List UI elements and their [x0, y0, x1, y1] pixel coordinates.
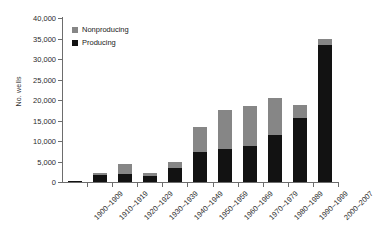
bar-segment-producing — [93, 175, 107, 182]
x-tick — [162, 183, 163, 187]
y-tick-label: 30,000 — [4, 55, 56, 64]
legend-label: Nonproducing — [82, 25, 129, 34]
chart-legend: NonproducingProducing — [72, 24, 129, 50]
x-tick — [263, 183, 264, 187]
x-tick — [213, 183, 214, 187]
bar-column — [168, 18, 182, 182]
y-tick-label: 5,000 — [4, 157, 56, 166]
bar-segment-producing — [218, 149, 232, 182]
bar-segment-nonproducing — [268, 98, 282, 135]
x-tick — [313, 183, 314, 187]
x-axis-line — [62, 182, 339, 183]
bar-segment-producing — [143, 176, 157, 182]
y-axis-tick-labels: 05,00010,00015,00020,00025,00030,00035,0… — [0, 0, 56, 246]
bar-segment-producing — [168, 168, 182, 182]
bar-segment-producing — [268, 135, 282, 182]
legend-item: Producing — [72, 37, 129, 48]
bar-column — [268, 18, 282, 182]
bar-segment-nonproducing — [168, 162, 182, 168]
legend-label: Producing — [82, 38, 116, 47]
x-tick — [238, 183, 239, 187]
bar-segment-producing — [193, 152, 207, 182]
x-tick — [112, 183, 113, 187]
bar-segment-nonproducing — [118, 164, 132, 174]
x-tick — [288, 183, 289, 187]
bar-segment-nonproducing — [243, 106, 257, 146]
bar-segment-producing — [293, 118, 307, 182]
bar-segment-producing — [68, 181, 82, 182]
bar-segment-nonproducing — [193, 127, 207, 152]
bar-segment-producing — [243, 146, 257, 182]
x-tick — [137, 183, 138, 187]
bar-column — [218, 18, 232, 182]
bar-segment-nonproducing — [143, 173, 157, 176]
bar-segment-nonproducing — [293, 105, 307, 117]
legend-swatch-icon — [72, 27, 78, 33]
x-tick — [338, 183, 339, 187]
y-tick-label: 10,000 — [4, 137, 56, 146]
bar-column — [318, 18, 332, 182]
legend-swatch-icon — [72, 40, 78, 46]
bar-segment-nonproducing — [93, 173, 107, 175]
y-tick-label: 0 — [4, 178, 56, 187]
x-tick — [187, 183, 188, 187]
bar-column — [143, 18, 157, 182]
bar-column — [293, 18, 307, 182]
x-tick — [87, 183, 88, 187]
y-tick-label: 20,000 — [4, 96, 56, 105]
y-tick-label: 25,000 — [4, 75, 56, 84]
bar-segment-producing — [318, 45, 332, 182]
y-tick-label: 35,000 — [4, 34, 56, 43]
y-tick-label: 40,000 — [4, 14, 56, 23]
bar-column — [193, 18, 207, 182]
bar-segment-nonproducing — [218, 110, 232, 149]
bar-segment-nonproducing — [318, 39, 332, 45]
y-tick-label: 15,000 — [4, 116, 56, 125]
bar-segment-producing — [118, 174, 132, 182]
legend-item: Nonproducing — [72, 24, 129, 35]
bar-column — [243, 18, 257, 182]
